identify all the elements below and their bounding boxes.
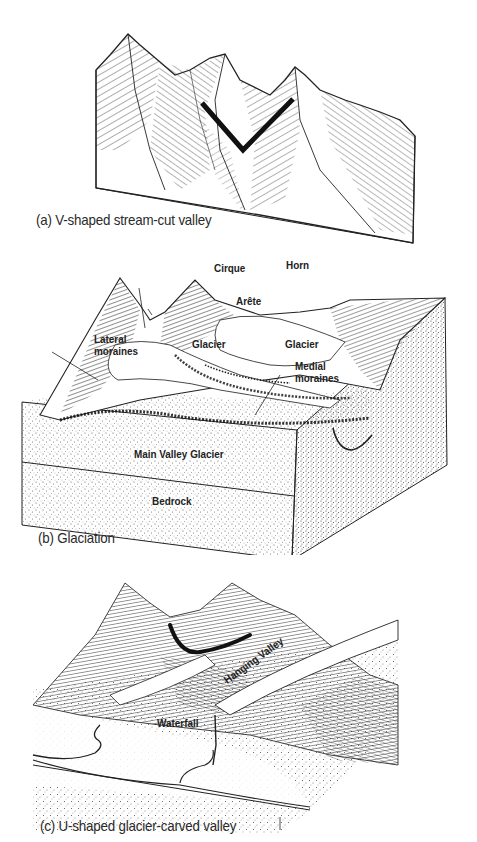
label-glacier-right: Glacier [285,338,319,350]
caption-c: (c) U-shaped glacier-carved valley [40,818,236,834]
label-main-valley-glacier: Main Valley Glacier [134,448,224,460]
label-bedrock: Bedrock [152,495,192,507]
caption-b: (b) Glaciation [38,530,115,546]
label-lateral-moraines-2: moraines [94,345,138,357]
panel-b-glaciation: Cirque Horn Arête Lateral moraines Glaci… [0,250,477,555]
caption-a: (a) V-shaped stream-cut valley [36,212,211,228]
label-medial-moraines-2: moraines [295,372,339,384]
label-waterfall: Waterfall [157,717,198,729]
panel-a-v-shaped-valley: (a) V-shaped stream-cut valley [0,0,477,250]
panel-c-u-shaped-valley: Hanging Valley Waterfall (c) U-shaped gl… [0,555,477,842]
u-valley-illustration [0,555,477,842]
label-lateral-moraines-1: Lateral [94,333,126,345]
label-arete: Arête [236,295,261,307]
label-horn: Horn [286,259,309,271]
label-cirque: Cirque [214,262,245,274]
label-glacier-left: Glacier [192,338,226,350]
label-medial-moraines-1: Medial [295,360,326,372]
arete-leader [148,309,152,315]
